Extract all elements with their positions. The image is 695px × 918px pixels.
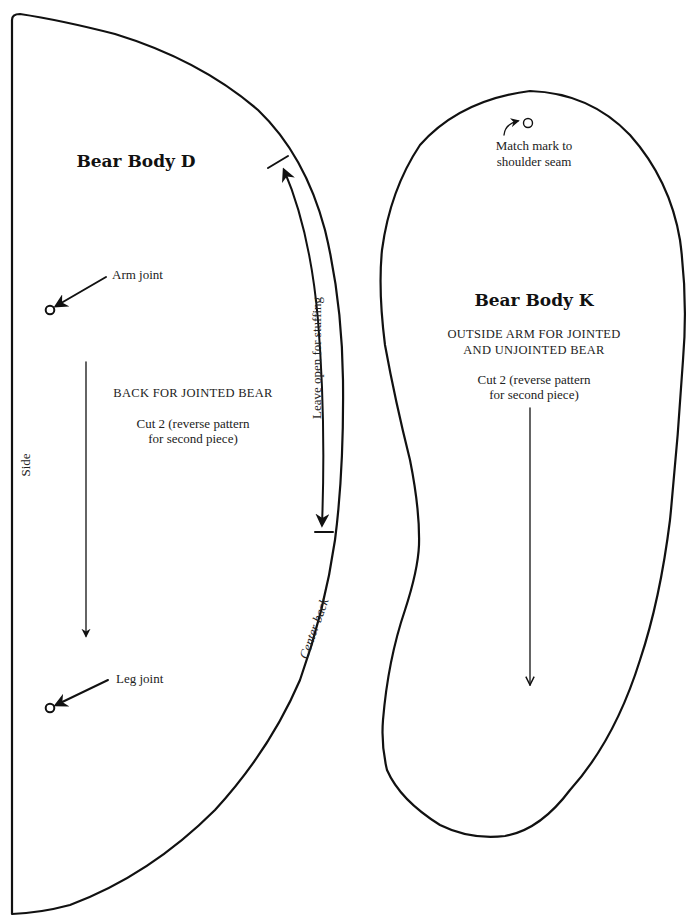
bear-body-d-cut-line-1: Cut 2 (reverse pattern <box>137 416 250 431</box>
leg-joint-label: Leg joint <box>116 671 164 686</box>
leave-open-top-tick <box>268 156 288 168</box>
bear-body-k-description-line-1: OUTSIDE ARM FOR JOINTED <box>447 327 620 341</box>
bear-body-d-piece: Arm joint Leg joint Bear Body D BACK FOR… <box>12 14 343 914</box>
match-mark-label-line-2: shoulder seam <box>497 154 572 169</box>
match-mark-label-line-1: Match mark to <box>496 138 573 153</box>
arm-joint-label: Arm joint <box>112 267 163 282</box>
pattern-sheet: Arm joint Leg joint Bear Body D BACK FOR… <box>0 0 695 918</box>
bear-body-k-cut-line-1: Cut 2 (reverse pattern <box>478 372 591 387</box>
center-back-label: Center back <box>296 596 332 661</box>
bear-body-k-description-line-2: AND UNJOINTED BEAR <box>463 343 605 357</box>
side-label: Side <box>18 453 33 476</box>
bear-body-d-description: BACK FOR JOINTED BEAR <box>113 386 273 400</box>
bear-body-d-title: Bear Body D <box>76 151 195 171</box>
bear-body-d-outline <box>12 14 343 914</box>
bear-body-k-cut-line-2: for second piece) <box>489 387 579 402</box>
bear-body-k-outline <box>381 91 685 837</box>
arm-joint-pointer <box>56 277 106 306</box>
match-mark-pointer <box>504 121 518 135</box>
leg-joint-pointer <box>56 680 108 705</box>
bear-body-d-cut-line-2: for second piece) <box>148 431 238 446</box>
match-mark-icon <box>524 119 533 128</box>
bear-body-k-piece: Match mark to shoulder seam Bear Body K … <box>381 91 685 837</box>
leg-joint-marker-icon <box>46 704 55 713</box>
arm-joint-marker-icon <box>46 306 55 315</box>
leave-open-label: Leave open for stuffing <box>309 296 324 419</box>
bear-body-k-title: Bear Body K <box>474 290 594 310</box>
